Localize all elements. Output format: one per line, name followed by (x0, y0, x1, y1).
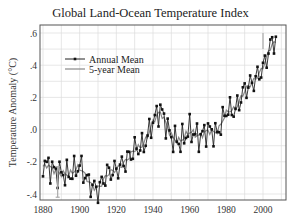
x-tick-label: 1960 (180, 205, 199, 215)
x-tick-label: 2000 (254, 205, 273, 215)
x-tick-label: 1920 (107, 205, 126, 215)
y-tick-label: -.4 (27, 190, 38, 200)
y-tick-label: .4 (30, 61, 37, 71)
y-tick-label: .6 (30, 29, 37, 39)
x-tick-label: 1880 (34, 205, 53, 215)
legend: Annual Mean5-year Mean (65, 54, 144, 75)
y-tick-label: -.2 (27, 157, 38, 167)
x-tick-label: 1900 (70, 205, 89, 215)
y-axis-label: Temperature Anomaly (°C) (7, 58, 19, 167)
legend-annual-marker (74, 58, 77, 61)
x-tick-label: 1940 (144, 205, 163, 215)
y-tick-label: .0 (30, 125, 37, 135)
legend-five-year-label: 5-year Mean (89, 64, 140, 75)
x-tick-label: 1980 (217, 205, 236, 215)
y-tick-label: .2 (30, 93, 37, 103)
line-chart: .6.4.2.0-.2-.418801900192019401960198020… (0, 0, 301, 224)
